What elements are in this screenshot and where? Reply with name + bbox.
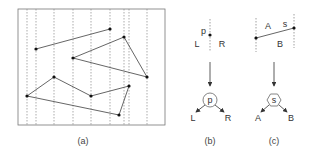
right-child-label: R: [225, 113, 232, 123]
left-child-label: L: [190, 113, 195, 123]
bounding-box: [18, 9, 165, 125]
right-region-label: R: [219, 39, 226, 49]
endpoint: [52, 75, 55, 78]
right-child-label: B: [288, 113, 294, 123]
panel-b: p L R p L R (b): [190, 19, 231, 146]
caption-c: (c): [269, 136, 280, 146]
endpoint: [71, 56, 74, 59]
segment-left-endpoint: [254, 36, 257, 39]
caption-a: (a): [78, 136, 89, 146]
x-node-label: p: [207, 95, 212, 105]
endpoint: [108, 27, 111, 30]
vertical-extensions: [27, 9, 147, 125]
y-node-label: s: [272, 95, 277, 105]
segment-s: [256, 28, 294, 38]
point-label: p: [201, 26, 206, 36]
segment: [27, 77, 54, 96]
segment: [73, 37, 124, 58]
left-region-label: L: [194, 39, 199, 49]
below-region-label: B: [277, 39, 283, 49]
right-child-arrow: [215, 105, 224, 112]
endpoint: [117, 113, 120, 116]
endpoint: [89, 94, 92, 97]
left-child-arrow: [196, 105, 205, 112]
segment: [54, 77, 91, 96]
endpoint: [34, 47, 37, 50]
endpoint: [25, 94, 28, 97]
segment-label: s: [283, 19, 288, 29]
segment-endpoints: [25, 27, 148, 116]
segment: [124, 37, 147, 77]
right-child-arrow: [279, 105, 287, 112]
left-child-label: A: [255, 113, 261, 123]
point-p: [208, 33, 211, 36]
endpoint: [122, 35, 125, 38]
endpoint: [145, 75, 148, 78]
segment-right-endpoint: [292, 26, 295, 29]
panel-c: A s B s A B (c): [254, 14, 295, 146]
trapezoidal-map-figure: (a) p L R p L R (b) A s B s A B (c): [0, 0, 312, 152]
endpoint: [127, 84, 130, 87]
panel-a: (a): [18, 9, 165, 146]
left-child-arrow: [261, 105, 269, 112]
caption-b: (b): [205, 136, 216, 146]
above-region-label: A: [265, 21, 271, 31]
